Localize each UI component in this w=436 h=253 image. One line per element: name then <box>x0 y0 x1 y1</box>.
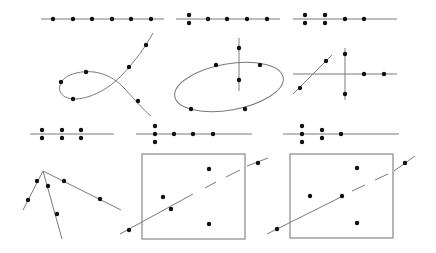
point-dot <box>320 128 324 132</box>
point-dot <box>303 21 307 25</box>
point-dot <box>136 99 140 103</box>
point-dot <box>245 17 249 21</box>
point-dot <box>298 86 302 90</box>
panel-r1c3-line-with-points <box>293 13 397 25</box>
point-dot <box>172 132 176 136</box>
point-dot <box>237 78 241 82</box>
point-dot <box>323 21 327 25</box>
point-dot <box>207 222 211 226</box>
panel-r2c1-loop-curve <box>59 33 153 116</box>
panel-r2c3-crossing-lines <box>293 48 397 100</box>
point-dot <box>343 92 347 96</box>
point-dot <box>191 132 195 136</box>
frame-box <box>142 154 245 239</box>
point-dot <box>149 17 153 21</box>
point-dot <box>71 17 75 21</box>
point-dot <box>51 17 55 21</box>
point-dot <box>340 194 344 198</box>
point-dot <box>320 136 324 140</box>
point-dot <box>214 63 218 67</box>
point-dot <box>153 124 157 128</box>
point-dot <box>55 212 59 216</box>
point-dot <box>355 221 359 225</box>
point-dot <box>26 198 30 202</box>
point-dot <box>300 132 304 136</box>
panel-r1c1-line-with-points <box>41 17 164 21</box>
line-segment <box>120 194 193 234</box>
point-dot <box>90 17 94 21</box>
point-dot <box>225 17 229 21</box>
point-dot <box>127 228 131 232</box>
point-dot <box>127 65 131 69</box>
panel-r3c2-line-with-points <box>136 124 252 144</box>
point-dot <box>60 128 64 132</box>
ellipse-curve <box>171 55 287 119</box>
point-dot <box>59 80 63 84</box>
panel-r4c1-fan-lines <box>23 171 121 239</box>
panel-r3c3-line-with-points <box>283 124 399 144</box>
panel-r1c2-line-with-points <box>176 13 280 25</box>
point-dot <box>35 179 39 183</box>
point-dot <box>256 161 260 165</box>
point-dot <box>79 136 83 140</box>
point-dot <box>169 207 173 211</box>
point-dot <box>206 17 210 21</box>
point-dot <box>243 107 247 111</box>
panel-r4c2-box-with-dashed-line <box>120 154 268 239</box>
point-dot <box>189 107 193 111</box>
point-dot <box>153 140 157 144</box>
point-dot <box>62 179 66 183</box>
loop-curve <box>60 33 153 116</box>
point-dot <box>60 136 64 140</box>
point-dot <box>308 194 312 198</box>
point-dot <box>98 197 102 201</box>
panel-r2c2-ellipse-with-line <box>171 38 287 119</box>
panel-r4c3-box-with-dashed-line <box>267 154 415 238</box>
point-dot <box>40 136 44 140</box>
point-dot <box>339 132 343 136</box>
point-dot <box>403 161 407 165</box>
point-dot <box>187 13 191 17</box>
point-dot <box>323 13 327 17</box>
point-dot <box>382 72 386 76</box>
diagram-canvas <box>0 0 436 253</box>
point-dot <box>300 140 304 144</box>
point-dot <box>362 72 366 76</box>
line-segment <box>205 182 216 188</box>
point-dot <box>343 52 347 56</box>
line-segment <box>43 171 62 239</box>
point-dot <box>355 166 359 170</box>
point-dot <box>265 17 269 21</box>
point-dot <box>300 124 304 128</box>
point-dot <box>71 97 75 101</box>
point-dot <box>343 17 347 21</box>
point-dot <box>303 13 307 17</box>
point-dot <box>79 128 83 132</box>
point-dot <box>324 59 328 63</box>
point-dot <box>46 184 50 188</box>
point-dot <box>275 227 279 231</box>
line-segment <box>226 170 240 177</box>
panel-r3c1-line-with-points <box>30 128 114 140</box>
point-configuration-diagram <box>0 0 436 253</box>
point-dot <box>187 21 191 25</box>
line-segment <box>23 171 43 210</box>
point-dot <box>258 63 262 67</box>
point-dot <box>144 43 148 47</box>
point-dot <box>161 195 165 199</box>
point-dot <box>362 17 366 21</box>
point-dot <box>207 167 211 171</box>
point-dot <box>211 132 215 136</box>
point-dot <box>110 17 114 21</box>
point-dot <box>129 17 133 21</box>
line-segment <box>43 171 121 210</box>
point-dot <box>84 70 88 74</box>
point-dot <box>237 46 241 50</box>
line-segment <box>352 185 365 191</box>
point-dot <box>40 128 44 132</box>
line-segment <box>375 174 388 180</box>
point-dot <box>153 132 157 136</box>
